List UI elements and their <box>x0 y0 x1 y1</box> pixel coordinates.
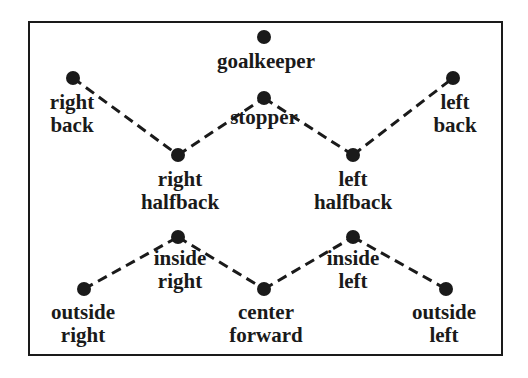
stopper-dot <box>257 91 271 105</box>
inside-right-label: inside right <box>154 247 207 293</box>
outside-right-dot <box>77 282 91 296</box>
outside-right-label: outside right <box>51 301 115 347</box>
right-back-label: right back <box>50 91 94 137</box>
center-forward-text-1: center <box>229 301 302 324</box>
center-forward-label: center forward <box>229 301 302 347</box>
left-halfback-text-2: halfback <box>314 191 392 214</box>
outside-right-text-2: right <box>51 324 115 347</box>
right-back-text-1: right <box>50 91 94 114</box>
goalkeeper-text: goalkeeper <box>217 50 315 73</box>
left-halfback-text-1: left <box>314 168 392 191</box>
outside-right-text-1: outside <box>51 301 115 324</box>
left-halfback-label: left halfback <box>314 168 392 214</box>
stopper-label: stopper <box>230 106 298 129</box>
left-back-text-1: left <box>433 91 476 114</box>
inside-right-text-2: right <box>154 270 207 293</box>
right-halfback-text-2: halfback <box>141 191 219 214</box>
right-halfback-dot <box>171 148 185 162</box>
inside-left-text-2: left <box>327 270 380 293</box>
outside-left-text-1: outside <box>412 301 476 324</box>
left-back-label: left back <box>433 91 476 137</box>
outside-left-text-2: left <box>412 324 476 347</box>
inside-left-text-1: inside <box>327 247 380 270</box>
goalkeeper-dot <box>257 30 271 44</box>
right-back-dot <box>66 71 80 85</box>
left-halfback-dot <box>346 148 360 162</box>
stopper-text: stopper <box>230 106 298 129</box>
center-forward-text-2: forward <box>229 324 302 347</box>
right-back-text-2: back <box>50 114 94 137</box>
right-halfback-label: right halfback <box>141 168 219 214</box>
left-back-text-2: back <box>433 114 476 137</box>
goalkeeper-label: goalkeeper <box>217 50 315 73</box>
inside-right-text-1: inside <box>154 247 207 270</box>
inside-left-dot <box>346 230 360 244</box>
right-halfback-text-1: right <box>141 168 219 191</box>
inside-left-label: inside left <box>327 247 380 293</box>
outside-left-label: outside left <box>412 301 476 347</box>
left-back-dot <box>446 71 460 85</box>
outside-left-dot <box>439 282 453 296</box>
inside-right-dot <box>171 230 185 244</box>
center-forward-dot <box>257 282 271 296</box>
